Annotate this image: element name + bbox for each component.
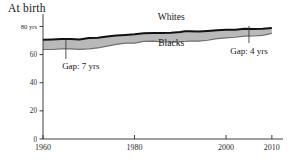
annotation-label-gap-1965: Gap: 7 yrs bbox=[62, 61, 100, 71]
x-tick-label: 2010 bbox=[264, 143, 280, 152]
annotation-label-gap-2005: Gap: 4 yrs bbox=[230, 46, 268, 56]
life-expectancy-chart: At birth 020406080 yrs1960198020002010Wh… bbox=[0, 0, 297, 162]
x-tick-label: 1980 bbox=[127, 143, 143, 152]
y-tick-label: 60 bbox=[30, 51, 38, 59]
y-tick-label: 20 bbox=[30, 107, 38, 115]
x-tick-label: 1960 bbox=[35, 143, 51, 152]
y-tick-label: 40 bbox=[30, 79, 38, 87]
series-label-blacks: Blacks bbox=[158, 38, 184, 48]
x-tick-label: 2000 bbox=[218, 143, 234, 152]
chart-plot-area: 020406080 yrs1960198020002010WhitesBlack… bbox=[0, 0, 297, 162]
series-label-whites: Whites bbox=[158, 12, 185, 22]
y-tick-label: 80 yrs bbox=[21, 23, 38, 30]
